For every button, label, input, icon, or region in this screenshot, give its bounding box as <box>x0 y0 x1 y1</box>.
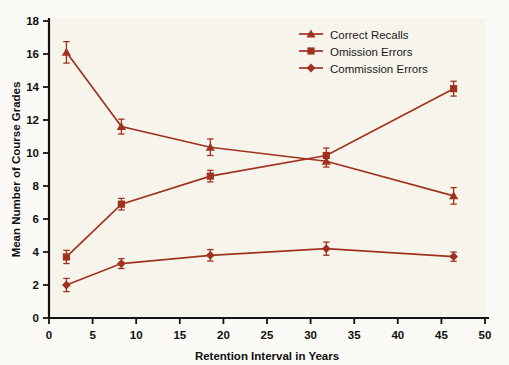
y-tick-label: 12 <box>26 114 39 126</box>
data-point-diamond <box>322 244 331 253</box>
chart-canvas: 02468101214161805101520253035404550Reten… <box>0 0 509 365</box>
x-tick-label: 20 <box>217 329 230 341</box>
data-point-square <box>323 152 330 159</box>
y-tick-label: 4 <box>33 246 40 258</box>
data-point-square <box>207 173 214 180</box>
y-tick-label: 0 <box>33 312 39 324</box>
x-tick-label: 15 <box>173 329 186 341</box>
y-tick-label: 8 <box>33 180 40 192</box>
legend-marker-square <box>307 47 314 54</box>
y-tick-label: 10 <box>26 147 39 159</box>
data-point-diamond <box>117 259 126 268</box>
y-tick-label: 14 <box>26 81 39 93</box>
series-line-2 <box>66 249 453 285</box>
data-point-square <box>63 253 70 260</box>
y-axis-title: Mean Number of Course Grades <box>10 82 22 258</box>
x-tick-label: 0 <box>46 329 52 341</box>
data-point-triangle <box>62 48 71 56</box>
x-tick-label: 40 <box>391 329 404 341</box>
chart-figure: 02468101214161805101520253035404550Reten… <box>0 0 509 365</box>
x-tick-label: 30 <box>304 329 317 341</box>
x-tick-label: 50 <box>479 329 492 341</box>
data-point-diamond <box>62 281 71 290</box>
y-tick-label: 16 <box>26 48 39 60</box>
x-tick-label: 10 <box>130 329 143 341</box>
x-tick-label: 45 <box>435 329 448 341</box>
x-tick-label: 25 <box>261 329 274 341</box>
legend-label-0: Correct Recalls <box>330 29 409 41</box>
series-line-1 <box>66 89 453 257</box>
data-point-square <box>450 85 457 92</box>
y-tick-label: 6 <box>33 213 39 225</box>
x-tick-label: 5 <box>89 329 96 341</box>
legend-label-2: Commission Errors <box>330 63 428 75</box>
data-point-diamond <box>206 251 215 260</box>
data-point-square <box>118 201 125 208</box>
x-axis-title: Retention Interval in Years <box>195 350 339 362</box>
y-tick-label: 2 <box>33 279 39 291</box>
y-tick-label: 18 <box>26 15 39 27</box>
legend-label-1: Omission Errors <box>330 46 413 58</box>
x-tick-label: 35 <box>348 329 361 341</box>
legend-marker-diamond <box>307 64 316 73</box>
data-point-diamond <box>449 252 458 261</box>
